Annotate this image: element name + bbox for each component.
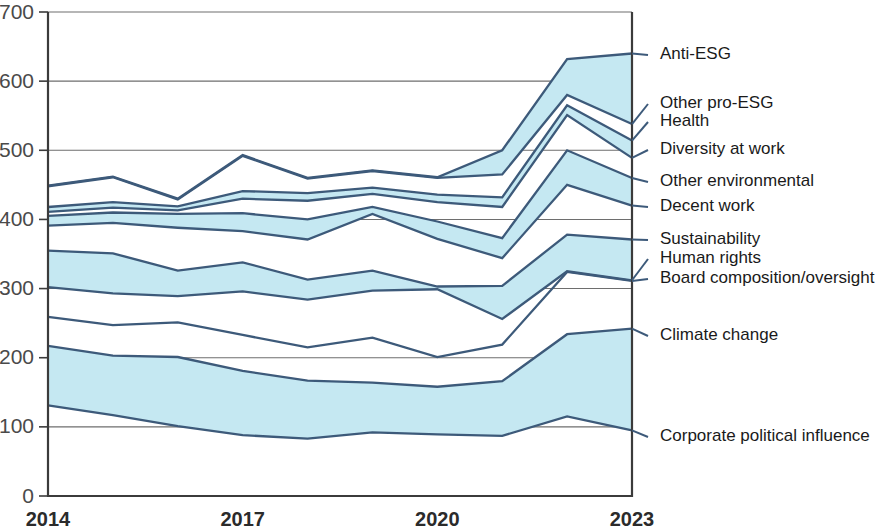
x-tick-label-2023: 2023 <box>610 508 655 530</box>
y-tick-label-100: 100 <box>0 414 34 437</box>
y-tick-label-700: 700 <box>0 0 34 23</box>
legend-leader-sustainability <box>632 239 648 240</box>
legend-leader-anti-esg <box>632 53 648 55</box>
legend-leader-health <box>632 122 648 141</box>
legend-leader-corporate-political-influence <box>632 430 648 437</box>
legend-group: Anti-ESGOther pro-ESGHealthDiversity at … <box>632 44 875 445</box>
series-line-anti-esg <box>48 53 632 198</box>
legend-label-sustainability: Sustainability <box>660 229 761 248</box>
x-tick-label-2017: 2017 <box>220 508 265 530</box>
legend-label-decent-work: Decent work <box>660 196 755 215</box>
legend-leader-board-composition-oversight <box>632 279 648 281</box>
legend-leader-decent-work <box>632 206 648 207</box>
x-tick-label-2020: 2020 <box>415 508 460 530</box>
y-tick-label-0: 0 <box>22 484 34 507</box>
legend-label-board-composition-oversight: Board composition/oversight <box>660 268 875 287</box>
legend-label-health: Health <box>660 111 709 130</box>
series-band-sustainability <box>48 235 632 319</box>
y-tick-label-500: 500 <box>0 138 34 161</box>
legend-leader-climate-change <box>632 329 648 336</box>
legend-label-corporate-political-influence: Corporate political influence <box>660 426 870 445</box>
legend-leader-other-pro-esg <box>632 104 648 124</box>
legend-leader-other-environmental <box>632 178 648 182</box>
stacked-area-chart: 0100200300400500600700 2014201720202023 … <box>0 0 878 531</box>
legend-label-diversity-at-work: Diversity at work <box>660 139 785 158</box>
chart-canvas: 0100200300400500600700 2014201720202023 … <box>0 0 878 531</box>
x-tick-label-2014: 2014 <box>26 508 71 530</box>
legend-leader-diversity-at-work <box>632 150 648 158</box>
y-tick-label-200: 200 <box>0 345 34 368</box>
y-tick-label-600: 600 <box>0 69 34 92</box>
series-band-anti-esg <box>48 53 632 199</box>
legend-leader-human-rights <box>632 259 648 280</box>
legend-label-climate-change: Climate change <box>660 325 778 344</box>
legend-label-human-rights: Human rights <box>660 248 761 267</box>
x-axis-ticks-group: 2014201720202023 <box>26 508 655 530</box>
y-axis-ticks-group: 0100200300400500600700 <box>0 0 48 507</box>
y-tick-label-400: 400 <box>0 207 34 230</box>
y-tick-label-300: 300 <box>0 276 34 299</box>
legend-label-other-pro-esg: Other pro-ESG <box>660 93 773 112</box>
legend-label-anti-esg: Anti-ESG <box>660 44 731 63</box>
legend-label-other-environmental: Other environmental <box>660 171 814 190</box>
